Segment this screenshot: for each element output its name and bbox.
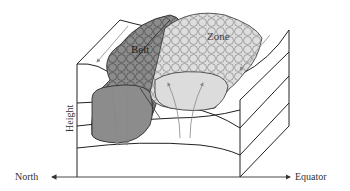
zone-label: Zone [207,30,230,42]
north-label: North [15,171,38,182]
equator-label: Equator [295,171,327,182]
belt-zone-diagram [0,0,350,191]
belt-label: Belt [131,43,149,55]
height-axis-label: Height [64,105,75,132]
zone-region [150,13,262,110]
